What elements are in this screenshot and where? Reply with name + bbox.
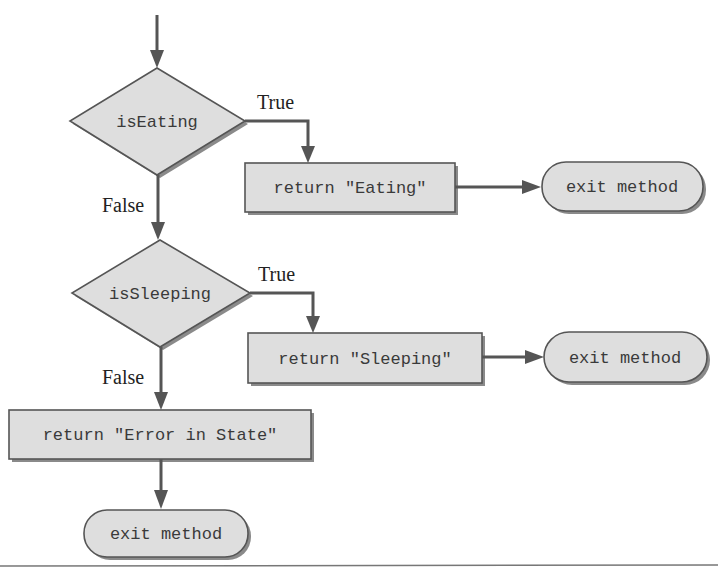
false-label: False (102, 194, 144, 216)
decision-is-eating: isEating (70, 68, 248, 178)
terminal-label: exit method (566, 178, 678, 197)
edge-p1-t1 (455, 180, 541, 194)
process-return-eating: return "Eating" (245, 163, 458, 215)
terminal-label: exit method (110, 525, 222, 544)
false-label: False (102, 366, 144, 388)
true-edge-1 (245, 121, 315, 163)
edge-p2-t2 (482, 350, 544, 364)
true-label: True (257, 91, 294, 113)
false-edge-2 (154, 347, 168, 410)
true-label: True (258, 263, 295, 285)
process-label: return "Error in State" (43, 426, 278, 445)
terminal-exit-method-1: exit method (542, 162, 706, 214)
true-edge-2 (250, 293, 320, 333)
flowchart: isEating True return "Eating" exit metho… (0, 0, 718, 575)
bottom-rule (0, 565, 718, 566)
terminal-label: exit method (569, 349, 681, 368)
decision-is-sleeping: isSleeping (72, 240, 253, 350)
terminal-exit-method-3: exit method (84, 510, 251, 560)
process-return-error: return "Error in State" (9, 410, 314, 462)
entry-arrow (150, 15, 164, 68)
false-edge-1 (151, 175, 165, 240)
decision-label: isEating (116, 113, 198, 132)
edge-p3-t3 (154, 459, 168, 509)
process-label: return "Eating" (273, 179, 426, 198)
process-return-sleeping: return "Sleeping" (248, 333, 485, 386)
decision-label: isSleeping (109, 285, 211, 304)
process-label: return "Sleeping" (278, 350, 451, 369)
terminal-exit-method-2: exit method (544, 332, 710, 385)
